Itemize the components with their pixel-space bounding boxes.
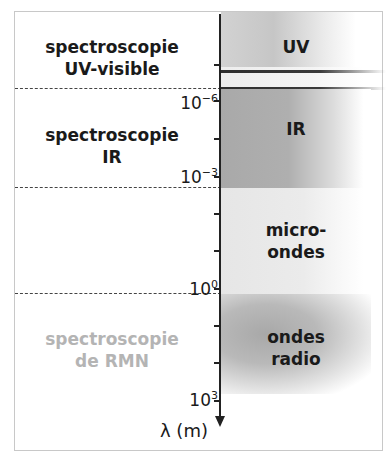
region-microwave-line2: ondes — [221, 241, 371, 263]
region-microwave: micro- ondes — [221, 219, 371, 263]
separator-ir-micro — [15, 187, 221, 188]
technique-ir: spectroscopie IR — [15, 124, 209, 168]
region-microwave-line1: micro- — [221, 219, 371, 241]
region-uv: UV — [221, 36, 371, 58]
axis-tick — [214, 250, 220, 252]
tick-label-1e3: 103 — [189, 390, 218, 409]
technique-uv-visible: spectroscopie UV-visible — [15, 36, 209, 80]
axis-arrow-icon — [215, 416, 225, 427]
region-radio-line1: ondes — [221, 326, 371, 348]
technique-uv-line2: UV-visible — [15, 58, 209, 80]
separator-uv-ir — [15, 88, 221, 89]
technique-ir-line1: spectroscopie — [15, 124, 209, 146]
axis-tick — [214, 213, 220, 215]
tick-label-1e0: 100 — [189, 279, 218, 298]
region-uv-label: UV — [221, 36, 371, 58]
visible-upper-line — [221, 70, 386, 73]
region-ir: IR — [221, 118, 371, 140]
technique-rmn-line1: spectroscopie — [15, 328, 209, 350]
technique-rmn: spectroscopie de RMN — [15, 328, 209, 372]
technique-uv-line1: spectroscopie — [15, 36, 209, 58]
axis-label: λ (m) — [160, 420, 208, 441]
region-radio-line2: radio — [221, 348, 371, 370]
axis-tick — [214, 362, 220, 364]
technique-ir-line2: IR — [15, 146, 209, 168]
region-radio: ondes radio — [221, 326, 371, 370]
axis-tick — [214, 325, 220, 327]
tick-label-1e-6: 10−6 — [180, 93, 218, 112]
region-ir-label: IR — [221, 118, 371, 140]
axis-tick — [214, 138, 220, 140]
technique-rmn-line2: de RMN — [15, 350, 209, 372]
tick-label-1e-3: 10−3 — [180, 167, 218, 186]
axis-tick — [214, 64, 220, 66]
